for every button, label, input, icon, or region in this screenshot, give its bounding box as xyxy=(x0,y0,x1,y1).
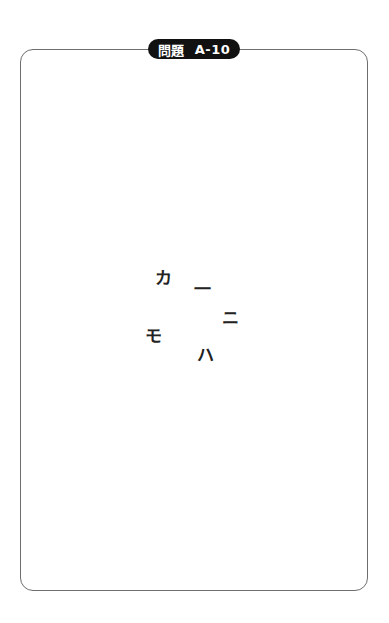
puzzle-char-ka: カ xyxy=(155,270,172,287)
puzzle-char-ichi: 一 xyxy=(194,281,211,298)
problem-number: A-10 xyxy=(195,42,231,57)
puzzle-char-mo: モ xyxy=(145,328,162,345)
problem-title-badge: 問題A-10 xyxy=(148,39,240,59)
puzzle-frame xyxy=(20,49,368,591)
puzzle-char-ha: ハ xyxy=(197,347,214,364)
problem-label: 問題 xyxy=(158,40,185,59)
puzzle-char-ni: ニ xyxy=(222,310,239,327)
